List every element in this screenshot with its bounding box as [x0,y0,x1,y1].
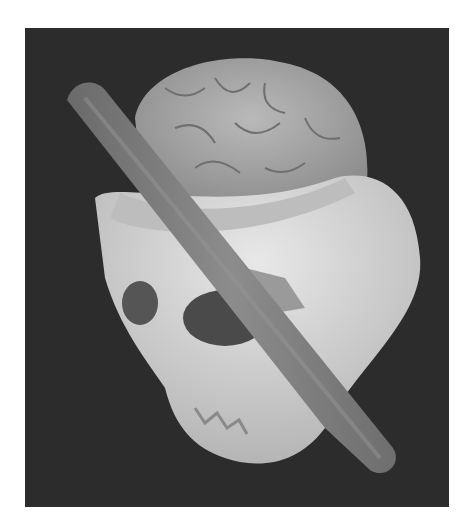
skull-rendering [25,28,449,507]
image-panel [25,28,449,507]
